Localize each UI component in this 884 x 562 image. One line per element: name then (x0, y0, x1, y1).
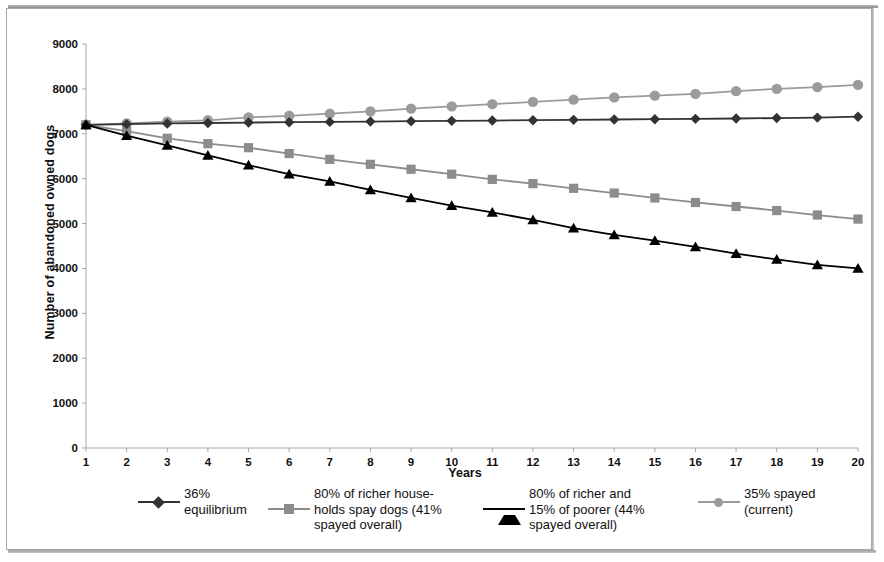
legend-item-80-richer-households: 80% of richer house-holds spay dogs (41%… (268, 486, 483, 533)
x-axis-tick-label: 14 (608, 456, 621, 468)
chart-plot-area: Number of abandoned owned dogs 010002000… (0, 0, 884, 562)
circle-data-point-marker (609, 92, 619, 102)
diamond-data-point-marker (365, 116, 375, 126)
circle-data-point-marker (568, 94, 578, 104)
circle-data-point-marker (812, 82, 822, 92)
x-axis-tick-label: 19 (811, 456, 824, 468)
y-axis-tick-label: 2000 (52, 352, 78, 364)
x-axis-tick-label: 2 (123, 456, 129, 468)
y-axis-tick-label: 6000 (52, 173, 78, 185)
legend-label: 35% spayed(current) (744, 486, 816, 517)
circle-data-point-marker (446, 101, 456, 111)
diamond-data-point-marker (650, 114, 660, 124)
square-data-point-marker (569, 184, 578, 193)
y-axis-tick-label: 7000 (52, 128, 78, 140)
x-axis-tick-label: 4 (205, 456, 212, 468)
triangle-marker-icon (483, 502, 525, 516)
circle-data-point-marker (487, 99, 497, 109)
square-data-point-marker (406, 165, 415, 174)
diamond-data-point-marker (325, 117, 335, 127)
square-data-point-marker (853, 214, 862, 223)
square-data-point-marker (285, 149, 294, 158)
square-data-point-marker (244, 143, 253, 152)
legend-item-35-spayed-current: 35% spayed(current) (698, 486, 864, 517)
legend-item-36-equilibrium: 36% equilibrium (18, 486, 268, 517)
circle-data-point-marker (650, 90, 660, 100)
diamond-data-point-marker (690, 114, 700, 124)
square-data-point-marker (732, 202, 741, 211)
x-axis-tick-label: 3 (164, 456, 170, 468)
x-axis-tick-label: 7 (327, 456, 333, 468)
x-axis-tick-label: 1 (83, 456, 90, 468)
diamond-data-point-marker (609, 114, 619, 124)
square-data-point-marker (610, 188, 619, 197)
square-data-point-marker (488, 175, 497, 184)
circle-data-point-marker (853, 80, 863, 90)
circle-marker-icon (698, 495, 740, 509)
y-axis-tick-label: 4000 (52, 262, 78, 274)
x-axis-tick-label: 8 (367, 456, 374, 468)
legend-label: 36% equilibrium (184, 486, 268, 517)
diamond-marker-icon (138, 495, 180, 509)
square-data-point-marker (203, 139, 212, 148)
diamond-data-point-marker (446, 116, 456, 126)
x-axis-tick-label: 15 (648, 456, 661, 468)
y-axis-tick-label: 5000 (52, 218, 78, 230)
diamond-data-point-marker (812, 112, 822, 122)
y-axis-tick-label: 3000 (52, 307, 78, 319)
series-line (86, 125, 858, 219)
circle-data-point-marker (731, 86, 741, 96)
square-data-point-marker (691, 198, 700, 207)
diamond-data-point-marker (731, 113, 741, 123)
diamond-data-point-marker (853, 112, 863, 122)
diamond-data-point-marker (406, 116, 416, 126)
diamond-data-point-marker (568, 115, 578, 125)
legend-item-80-richer-15-poorer: 80% of richer and15% of poorer (44%spaye… (483, 486, 698, 533)
square-data-point-marker (325, 155, 334, 164)
circle-data-point-marker (528, 97, 538, 107)
x-axis-tick-label: 20 (852, 456, 865, 468)
x-axis-title: Years (395, 466, 535, 480)
y-axis-tick-label: 0 (72, 442, 78, 454)
circle-data-point-marker (365, 106, 375, 116)
diamond-data-point-marker (487, 115, 497, 125)
square-data-point-marker (772, 206, 781, 215)
x-axis-tick-label: 13 (567, 456, 580, 468)
circle-data-point-marker (406, 103, 416, 113)
square-marker-icon (268, 502, 310, 516)
x-axis-tick-label: 5 (245, 456, 252, 468)
legend-label: 80% of richer and15% of poorer (44%spaye… (529, 486, 645, 533)
circle-data-point-marker (690, 89, 700, 99)
square-data-point-marker (528, 179, 537, 188)
y-axis-tick-label: 1000 (52, 397, 78, 409)
chart-legend: 36% equilibrium 80% of richer house-hold… (18, 486, 864, 548)
square-data-point-marker (366, 160, 375, 169)
diamond-data-point-marker (772, 113, 782, 123)
x-axis-tick-label: 18 (770, 456, 783, 468)
square-data-point-marker (447, 170, 456, 179)
diamond-data-point-marker (528, 115, 538, 125)
legend-label: 80% of richer house-holds spay dogs (41%… (314, 486, 442, 533)
y-axis-tick-label: 8000 (52, 83, 78, 95)
y-axis-tick-label: 9000 (52, 38, 78, 50)
square-data-point-marker (650, 193, 659, 202)
circle-data-point-marker (772, 84, 782, 94)
x-axis-tick-label: 16 (689, 456, 702, 468)
square-data-point-marker (813, 210, 822, 219)
series-line (86, 125, 858, 269)
x-axis-tick-label: 17 (730, 456, 743, 468)
x-axis-tick-label: 6 (286, 456, 292, 468)
